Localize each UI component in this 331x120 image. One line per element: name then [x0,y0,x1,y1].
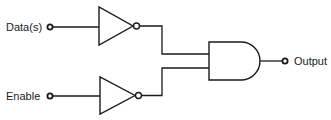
data-input-terminal [47,24,52,29]
enable-input-terminal [47,93,52,98]
not-gate-data-bubble [134,23,140,29]
data-to-and-wire [140,26,210,54]
output-terminal [282,58,287,63]
and-gate [209,42,260,80]
logic-circuit-diagram: Data(s) Enable Output [0,0,331,120]
not-gate-data [99,7,140,45]
not-gate-enable [100,77,142,114]
output-group: Output [260,55,327,67]
not-gate-enable-bubble [136,93,142,99]
enable-input-group: Enable [6,90,100,102]
data-input-label: Data(s) [6,21,42,33]
data-input-group: Data(s) [6,21,99,33]
not-gate-enable-triangle [100,77,135,114]
output-label: Output [294,55,327,67]
not-gate-data-triangle [99,7,133,45]
enable-input-label: Enable [6,90,40,102]
enable-to-and-wire [142,68,210,96]
